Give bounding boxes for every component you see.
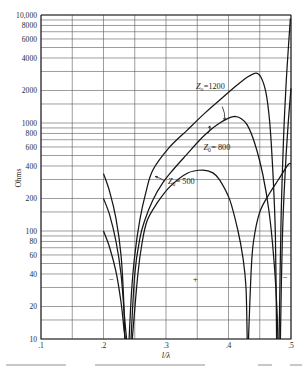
caption-fragment <box>290 364 302 366</box>
curve-label: Z0= 500 <box>168 177 195 187</box>
x-tick-label: .5 <box>288 341 294 350</box>
x-tick-label: .2 <box>101 341 107 350</box>
caption-fragment <box>258 364 272 366</box>
curve-segment <box>280 88 291 339</box>
x-axis-label: l/λ <box>162 350 171 360</box>
impedance-chart: 10,0008000600040002000100080060040020010… <box>0 0 305 371</box>
y-tick-label: 400 <box>26 162 38 171</box>
minus-sign: − <box>108 274 113 284</box>
caption-fragment <box>6 364 66 366</box>
y-tick-label: 2000 <box>22 86 37 95</box>
plus-sign: + <box>193 274 198 284</box>
curve-label: Zo=1200 <box>196 82 225 92</box>
x-tick-label: .3 <box>163 341 169 350</box>
y-tick-label: 80 <box>29 237 37 246</box>
leader-arrow-icon <box>155 176 164 181</box>
caption-fragment <box>95 364 205 366</box>
y-tick-label: 40 <box>29 270 37 279</box>
y-tick-label: 200 <box>26 194 38 203</box>
curve-segment <box>129 73 277 339</box>
y-tick-label: 10 <box>29 335 37 344</box>
y-axis-label: Ohms <box>14 168 23 187</box>
y-tick-label: 4000 <box>22 54 37 63</box>
y-tick-label: 60 <box>29 251 37 260</box>
arrowhead-icon <box>223 118 225 121</box>
y-tick-label: 10,000 <box>16 11 37 20</box>
cut-off-caption <box>0 362 305 371</box>
y-tick-label: 20 <box>29 302 37 311</box>
gridlines <box>41 15 291 339</box>
y-tick-label: 100 <box>26 227 38 236</box>
x-tick-label: .4 <box>226 341 232 350</box>
curve-label: Z0= 800 <box>204 143 231 153</box>
x-tick-label: .1 <box>38 341 44 350</box>
minus-sign: − <box>282 272 287 282</box>
y-tick-label: 6000 <box>22 35 37 44</box>
x-axis-tick-labels: .1.2.3.4.5 <box>38 341 294 350</box>
y-tick-label: 8000 <box>22 21 37 30</box>
curve-segment <box>132 170 247 339</box>
y-tick-label: 800 <box>26 129 38 138</box>
y-tick-label: 600 <box>26 143 38 152</box>
y-tick-label: 1000 <box>22 119 37 128</box>
